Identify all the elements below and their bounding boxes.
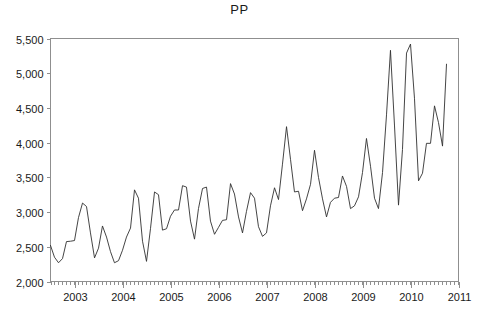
x-tick-label: 2005 — [159, 291, 183, 303]
x-tick-label: 2008 — [303, 291, 327, 303]
x-axis-major-ticks — [76, 282, 460, 288]
x-tick-label: 2004 — [111, 291, 135, 303]
y-axis-tick-labels: 2,0002,5003,0003,5004,0004,5005,0005,500 — [16, 34, 44, 289]
y-tick-label: 5,500 — [16, 34, 44, 46]
x-tick-label: 2003 — [63, 291, 87, 303]
data-series-line — [51, 44, 447, 263]
y-tick-label: 2,500 — [16, 242, 44, 254]
y-tick-label: 5,000 — [16, 68, 44, 80]
y-tick-label: 4,500 — [16, 103, 44, 115]
plot-frame — [51, 39, 459, 282]
y-tick-label: 3,000 — [16, 207, 44, 219]
x-tick-label: 2010 — [399, 291, 423, 303]
chart-figure: PP 2,0002,5003,0003,5004,0004,5005,0005,… — [0, 0, 479, 319]
x-axis-tick-labels: 200320042005200620072008200920102011 — [63, 291, 471, 303]
x-tick-label: 2011 — [448, 291, 472, 303]
x-tick-label: 2007 — [255, 291, 279, 303]
y-tick-label: 4,000 — [16, 138, 44, 150]
x-tick-label: 2009 — [351, 291, 375, 303]
x-tick-label: 2006 — [207, 291, 231, 303]
y-axis-ticks — [47, 40, 51, 283]
line-chart-plot: 2,0002,5003,0003,5004,0004,5005,0005,500… — [0, 0, 479, 319]
y-tick-label: 3,500 — [16, 172, 44, 184]
y-tick-label: 2,000 — [16, 277, 44, 289]
